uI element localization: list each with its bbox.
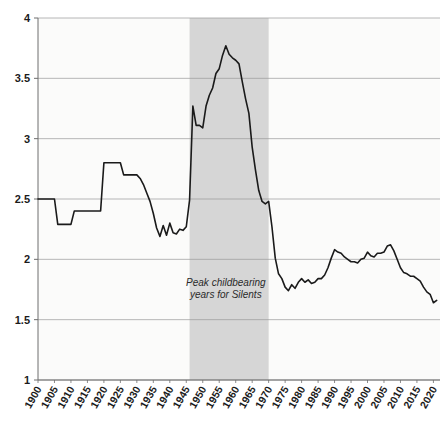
chart-canvas: 11.522.533.54 19001905191019151920192519…	[0, 0, 447, 440]
fertility-rate-chart: 11.522.533.54 19001905191019151920192519…	[0, 0, 447, 440]
y-tick-label: 2	[24, 253, 30, 265]
peak-childbearing-note-line1: Peak childbearing	[186, 277, 266, 288]
annotation-group: Peak childbearingyears for Silents	[186, 277, 266, 300]
y-tick-label: 1	[24, 374, 30, 386]
y-tick-label: 4	[24, 12, 31, 24]
y-tick-label: 3	[24, 133, 30, 145]
y-tick-label: 1.5	[15, 314, 30, 326]
peak-childbearing-note-line2: years for Silents	[189, 289, 262, 300]
y-tick-label: 2.5	[15, 193, 30, 205]
y-tick-label: 3.5	[15, 72, 30, 84]
